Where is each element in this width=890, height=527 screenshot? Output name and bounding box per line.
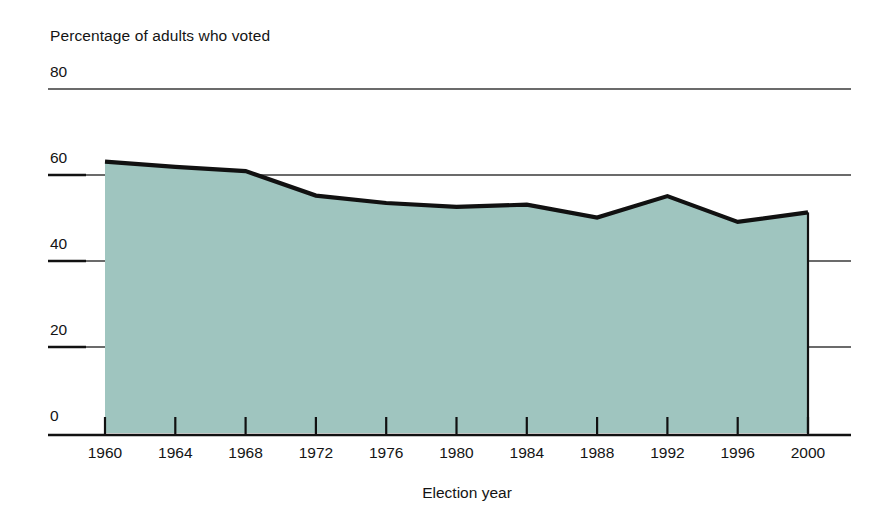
y-tick-label-60: 60	[50, 149, 67, 167]
x-tick-label-1964: 1964	[145, 444, 205, 462]
x-tick-label-1988: 1988	[567, 444, 627, 462]
x-tick-label-1968: 1968	[216, 444, 276, 462]
area-fill	[105, 162, 808, 433]
y-tick-label-40: 40	[50, 235, 67, 253]
voter-turnout-area-chart: Percentage of adults who voted	[0, 0, 890, 527]
x-axis-title: Election year	[422, 484, 512, 502]
x-tick-label-1984: 1984	[497, 444, 557, 462]
y-tick-label-0: 0	[50, 407, 59, 425]
x-tick-label-1972: 1972	[286, 444, 346, 462]
x-tick-label-1960: 1960	[75, 444, 135, 462]
x-tick-label-1980: 1980	[427, 444, 487, 462]
y-tick-label-80: 80	[50, 63, 67, 81]
x-tick-label-1976: 1976	[356, 444, 416, 462]
x-tick-label-1996: 1996	[708, 444, 768, 462]
x-axis-title-wrapper: Election year	[0, 484, 890, 502]
y-tick-label-20: 20	[50, 321, 67, 339]
x-tick-label-2000: 2000	[778, 444, 838, 462]
x-tick-label-1992: 1992	[637, 444, 697, 462]
